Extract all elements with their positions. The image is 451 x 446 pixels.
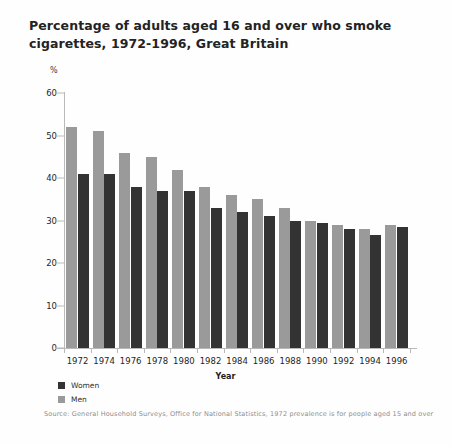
bar-group bbox=[226, 93, 249, 348]
source-note: Source: General Household Surveys, Offic… bbox=[44, 410, 433, 418]
y-axis-tick-mark bbox=[56, 220, 64, 221]
x-axis-tick-label: 1972 bbox=[63, 356, 93, 366]
bar-group bbox=[66, 93, 89, 348]
bar-men bbox=[93, 131, 104, 348]
bar-group bbox=[305, 93, 328, 348]
x-axis-tick-mark bbox=[91, 348, 92, 353]
legend-swatch-men-icon bbox=[58, 396, 65, 403]
bar-women bbox=[344, 229, 355, 348]
x-axis-tick-label: 1982 bbox=[196, 356, 226, 366]
chart-title: Percentage of adults aged 16 and over wh… bbox=[29, 17, 399, 53]
x-axis-tick-label: 1980 bbox=[169, 356, 199, 366]
bar-men bbox=[146, 157, 157, 348]
bar-men bbox=[252, 199, 263, 348]
bar-men bbox=[359, 229, 370, 348]
x-axis-tick-mark bbox=[117, 348, 118, 353]
x-axis-tick-mark bbox=[170, 348, 171, 353]
y-axis-tick-mark bbox=[56, 178, 64, 179]
bar-women bbox=[397, 227, 408, 348]
bar-men bbox=[226, 195, 237, 348]
x-axis-tick-mark bbox=[144, 348, 145, 353]
bar-men bbox=[332, 225, 343, 348]
bar-women bbox=[131, 187, 142, 349]
bar-women bbox=[264, 216, 275, 348]
bar-women bbox=[184, 191, 195, 348]
bar-group bbox=[119, 93, 142, 348]
y-axis-tick-label: 20 bbox=[35, 258, 57, 268]
x-axis-tick-mark bbox=[197, 348, 198, 353]
x-axis-line bbox=[55, 348, 417, 349]
x-axis-tick-label: 1974 bbox=[89, 356, 119, 366]
bar-group bbox=[199, 93, 222, 348]
bar-women bbox=[157, 191, 168, 348]
legend-label-women: Women bbox=[71, 381, 99, 390]
bar-group bbox=[385, 93, 408, 348]
bar-women bbox=[78, 174, 89, 348]
x-axis-tick-mark bbox=[224, 348, 225, 353]
x-axis-tick-mark bbox=[357, 348, 358, 353]
legend-item-women: Women bbox=[58, 379, 99, 391]
x-axis-tick-label: 1990 bbox=[302, 356, 332, 366]
x-axis-tick-mark bbox=[64, 348, 65, 353]
x-axis-tick-label: 1996 bbox=[382, 356, 412, 366]
y-axis-tick-label: 40 bbox=[35, 173, 57, 183]
y-axis-tick-label: 30 bbox=[35, 216, 57, 226]
x-axis-tick-mark bbox=[383, 348, 384, 353]
bar-women bbox=[370, 235, 381, 348]
y-axis-tick-mark bbox=[56, 93, 64, 94]
x-axis-tick-label: 1976 bbox=[116, 356, 146, 366]
bar-women bbox=[237, 212, 248, 348]
y-axis-tick-label: 50 bbox=[35, 131, 57, 141]
x-axis-tick-mark bbox=[330, 348, 331, 353]
chart-figure: Percentage of adults aged 16 and over wh… bbox=[0, 0, 451, 446]
y-axis-tick-mark bbox=[56, 305, 64, 306]
x-axis-tick-label: 1984 bbox=[222, 356, 252, 366]
y-axis-tick-mark bbox=[56, 263, 64, 264]
bar-men bbox=[279, 208, 290, 348]
bar-men bbox=[66, 127, 77, 348]
bar-group bbox=[359, 93, 382, 348]
legend-swatch-women-icon bbox=[58, 382, 65, 389]
x-axis-tick-mark bbox=[250, 348, 251, 353]
x-axis-tick-mark bbox=[277, 348, 278, 353]
y-axis-tick-label: 0 bbox=[35, 343, 57, 353]
bar-women bbox=[104, 174, 115, 348]
bar-group bbox=[146, 93, 169, 348]
bar-group bbox=[93, 93, 116, 348]
bar-men bbox=[305, 221, 316, 349]
bar-group bbox=[279, 93, 302, 348]
y-axis-tick-label: 60 bbox=[35, 88, 57, 98]
bar-men bbox=[119, 153, 130, 349]
x-axis-tick-label: 1992 bbox=[329, 356, 359, 366]
bar-women bbox=[317, 223, 328, 348]
bar-men bbox=[172, 170, 183, 349]
x-axis-tick-label: 1978 bbox=[142, 356, 172, 366]
legend-label-men: Men bbox=[71, 395, 87, 404]
x-axis-tick-mark bbox=[303, 348, 304, 353]
bar-men bbox=[385, 225, 396, 348]
bar-group bbox=[252, 93, 275, 348]
bar-group bbox=[332, 93, 355, 348]
y-axis-tick-mark bbox=[56, 348, 64, 349]
x-axis-tick-label: 1988 bbox=[275, 356, 305, 366]
bar-women bbox=[211, 208, 222, 348]
chart-legend: Women Men bbox=[58, 379, 99, 407]
x-axis-tick-label: 1994 bbox=[355, 356, 385, 366]
y-axis-tick-mark bbox=[56, 135, 64, 136]
x-axis-tick-mark bbox=[410, 348, 411, 353]
bar-men bbox=[199, 187, 210, 349]
bar-women bbox=[290, 221, 301, 349]
bar-group bbox=[172, 93, 195, 348]
x-axis-tick-label: 1986 bbox=[249, 356, 279, 366]
y-axis-tick-label: 10 bbox=[35, 301, 57, 311]
legend-item-men: Men bbox=[58, 393, 99, 405]
